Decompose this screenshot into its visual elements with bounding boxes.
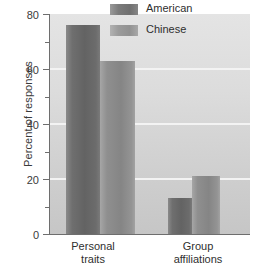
legend-item-american: American <box>110 2 205 19</box>
x-category-label-personal-traits: Personal traits <box>50 240 136 265</box>
bar-group-affiliations-american <box>168 198 192 234</box>
y-tick-label-80: 80 <box>0 10 39 21</box>
y-tick-label-60: 60 <box>0 65 39 76</box>
legend-label-chinese: Chinese <box>146 23 186 35</box>
legend-label-american: American <box>146 2 192 14</box>
x-category-line-2: affiliations <box>150 253 246 266</box>
legend-swatch-american <box>110 4 138 15</box>
bar-chart-figure: Percent of responses 80 60 40 20 0 Ameri… <box>0 0 260 273</box>
bar-personal-traits-chinese <box>100 61 135 234</box>
y-tick-label-40: 40 <box>0 120 39 131</box>
x-category-line-1: Group <box>150 240 246 253</box>
y-tick-label-20: 20 <box>0 175 39 186</box>
legend: American Chinese <box>110 2 205 44</box>
plot-area <box>50 14 250 234</box>
x-category-label-group-affiliations: Group affiliations <box>150 240 246 265</box>
x-category-line-1: Personal <box>50 240 136 253</box>
legend-item-chinese: Chinese <box>110 23 205 40</box>
x-axis-line <box>49 234 250 235</box>
x-category-line-2: traits <box>50 253 136 266</box>
legend-swatch-chinese <box>110 25 138 36</box>
bar-group-affiliations-chinese <box>192 176 220 234</box>
bar-personal-traits-american <box>66 25 100 234</box>
y-tick-label-0: 0 <box>0 230 39 241</box>
